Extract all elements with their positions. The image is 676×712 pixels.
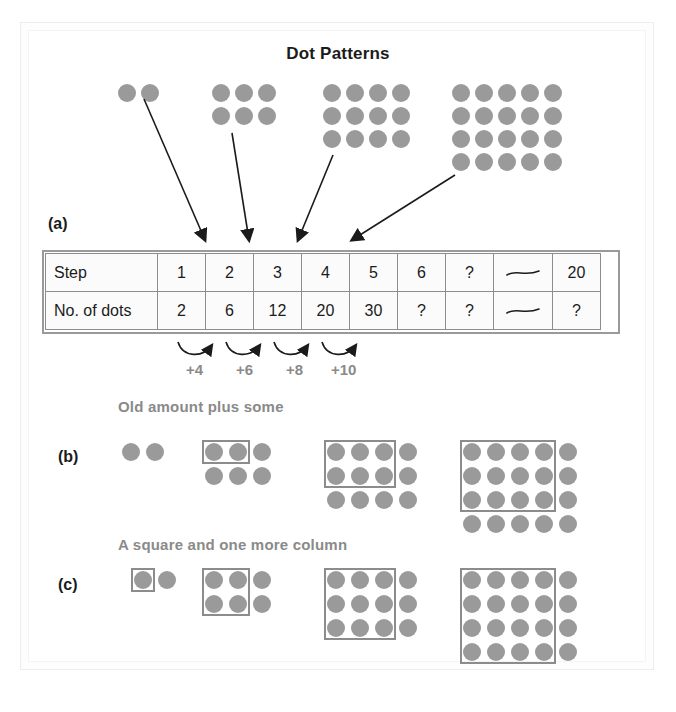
dot — [559, 443, 577, 461]
dot — [399, 619, 417, 637]
dot — [559, 643, 577, 661]
dot — [158, 571, 176, 589]
highlight-box — [324, 568, 396, 640]
cell-dots-4: 20 — [302, 292, 350, 330]
cell-dots-1: 2 — [158, 292, 206, 330]
cell-step-5: 5 — [350, 254, 398, 292]
cell-dots-5: 30 — [350, 292, 398, 330]
dot — [323, 107, 341, 125]
part-b-dot-pattern-step-1 — [122, 443, 164, 461]
dot — [205, 467, 223, 485]
highlight-box — [460, 568, 556, 664]
cell-dots-3: 12 — [254, 292, 302, 330]
dot — [323, 130, 341, 148]
dot — [475, 130, 493, 148]
dot — [253, 467, 271, 485]
cell-dots-2: 6 — [206, 292, 254, 330]
dot — [392, 107, 410, 125]
highlight-box — [460, 440, 556, 512]
dot — [475, 107, 493, 125]
dot — [559, 515, 577, 533]
cell-step-3: 3 — [254, 254, 302, 292]
cell-step-unknown: ? — [446, 254, 494, 292]
cell-dots-20: ? — [553, 292, 601, 330]
dot — [212, 107, 230, 125]
part-c-dot-pattern-step-3 — [327, 571, 417, 637]
dot — [498, 84, 516, 102]
dot — [351, 491, 369, 509]
top-dot-pattern-step-3 — [323, 84, 410, 148]
dot — [544, 153, 562, 171]
dot — [521, 107, 539, 125]
page-title: Dot Patterns — [0, 44, 676, 64]
dot — [399, 467, 417, 485]
cell-step-1: 1 — [158, 254, 206, 292]
part-label-b: (b) — [58, 448, 78, 466]
dot — [369, 107, 387, 125]
part-b-dot-pattern-step-3 — [327, 443, 417, 509]
dot — [487, 515, 505, 533]
dot — [235, 107, 253, 125]
squiggle-dash-icon — [494, 304, 552, 318]
part-c-dot-pattern-step-2 — [205, 571, 271, 613]
dot — [475, 84, 493, 102]
dot — [559, 619, 577, 637]
dot — [559, 595, 577, 613]
dot — [122, 443, 140, 461]
dot — [369, 84, 387, 102]
highlight-box — [324, 440, 396, 488]
table-row-step: Step 1 2 3 4 5 6 ? 20 — [46, 254, 601, 292]
dot — [323, 84, 341, 102]
dot — [146, 443, 164, 461]
dot — [229, 467, 247, 485]
highlight-box — [202, 568, 250, 616]
squiggle-dash-icon — [494, 266, 552, 280]
table-row-dots: No. of dots 2 6 12 20 30 ? ? ? — [46, 292, 601, 330]
difference-label-4: +10 — [331, 361, 356, 378]
cell-step-ellipsis — [494, 254, 553, 292]
dot — [521, 84, 539, 102]
difference-label-3: +8 — [286, 361, 303, 378]
dot — [498, 107, 516, 125]
part-c-dot-pattern-step-1 — [134, 571, 176, 589]
dot — [559, 491, 577, 509]
part-b-dot-pattern-step-4 — [463, 443, 577, 533]
dot — [399, 595, 417, 613]
dot — [253, 443, 271, 461]
dot — [511, 515, 529, 533]
dot — [535, 515, 553, 533]
dot — [118, 84, 136, 102]
dot — [452, 130, 470, 148]
dot-patterns-figure: Dot Patterns (a) Step 1 2 3 4 5 6 ? — [0, 0, 676, 712]
dot — [452, 107, 470, 125]
dot — [399, 443, 417, 461]
dot — [498, 130, 516, 148]
dot — [392, 130, 410, 148]
dot — [463, 515, 481, 533]
cell-step-20: 20 — [553, 254, 601, 292]
dot — [375, 491, 393, 509]
dot — [327, 491, 345, 509]
part-b-dot-pattern-step-2 — [205, 443, 271, 485]
dot — [212, 84, 230, 102]
dot — [559, 467, 577, 485]
dot — [258, 107, 276, 125]
row-header-step: Step — [46, 254, 158, 292]
dot-count-table: Step 1 2 3 4 5 6 ? 20 No. of dots — [45, 253, 601, 330]
dot — [399, 491, 417, 509]
dot — [235, 84, 253, 102]
caption-part-c: A square and one more column — [118, 536, 347, 553]
cell-dots-6: ? — [398, 292, 446, 330]
dot — [399, 571, 417, 589]
dot — [346, 130, 364, 148]
dot — [559, 571, 577, 589]
difference-label-1: +4 — [186, 361, 203, 378]
dot — [544, 107, 562, 125]
cell-step-2: 2 — [206, 254, 254, 292]
dot — [521, 130, 539, 148]
dot — [141, 84, 159, 102]
dot — [452, 153, 470, 171]
cell-dots-unknown: ? — [446, 292, 494, 330]
top-dot-pattern-step-4 — [452, 84, 562, 171]
part-c-dot-pattern-step-4 — [463, 571, 577, 661]
